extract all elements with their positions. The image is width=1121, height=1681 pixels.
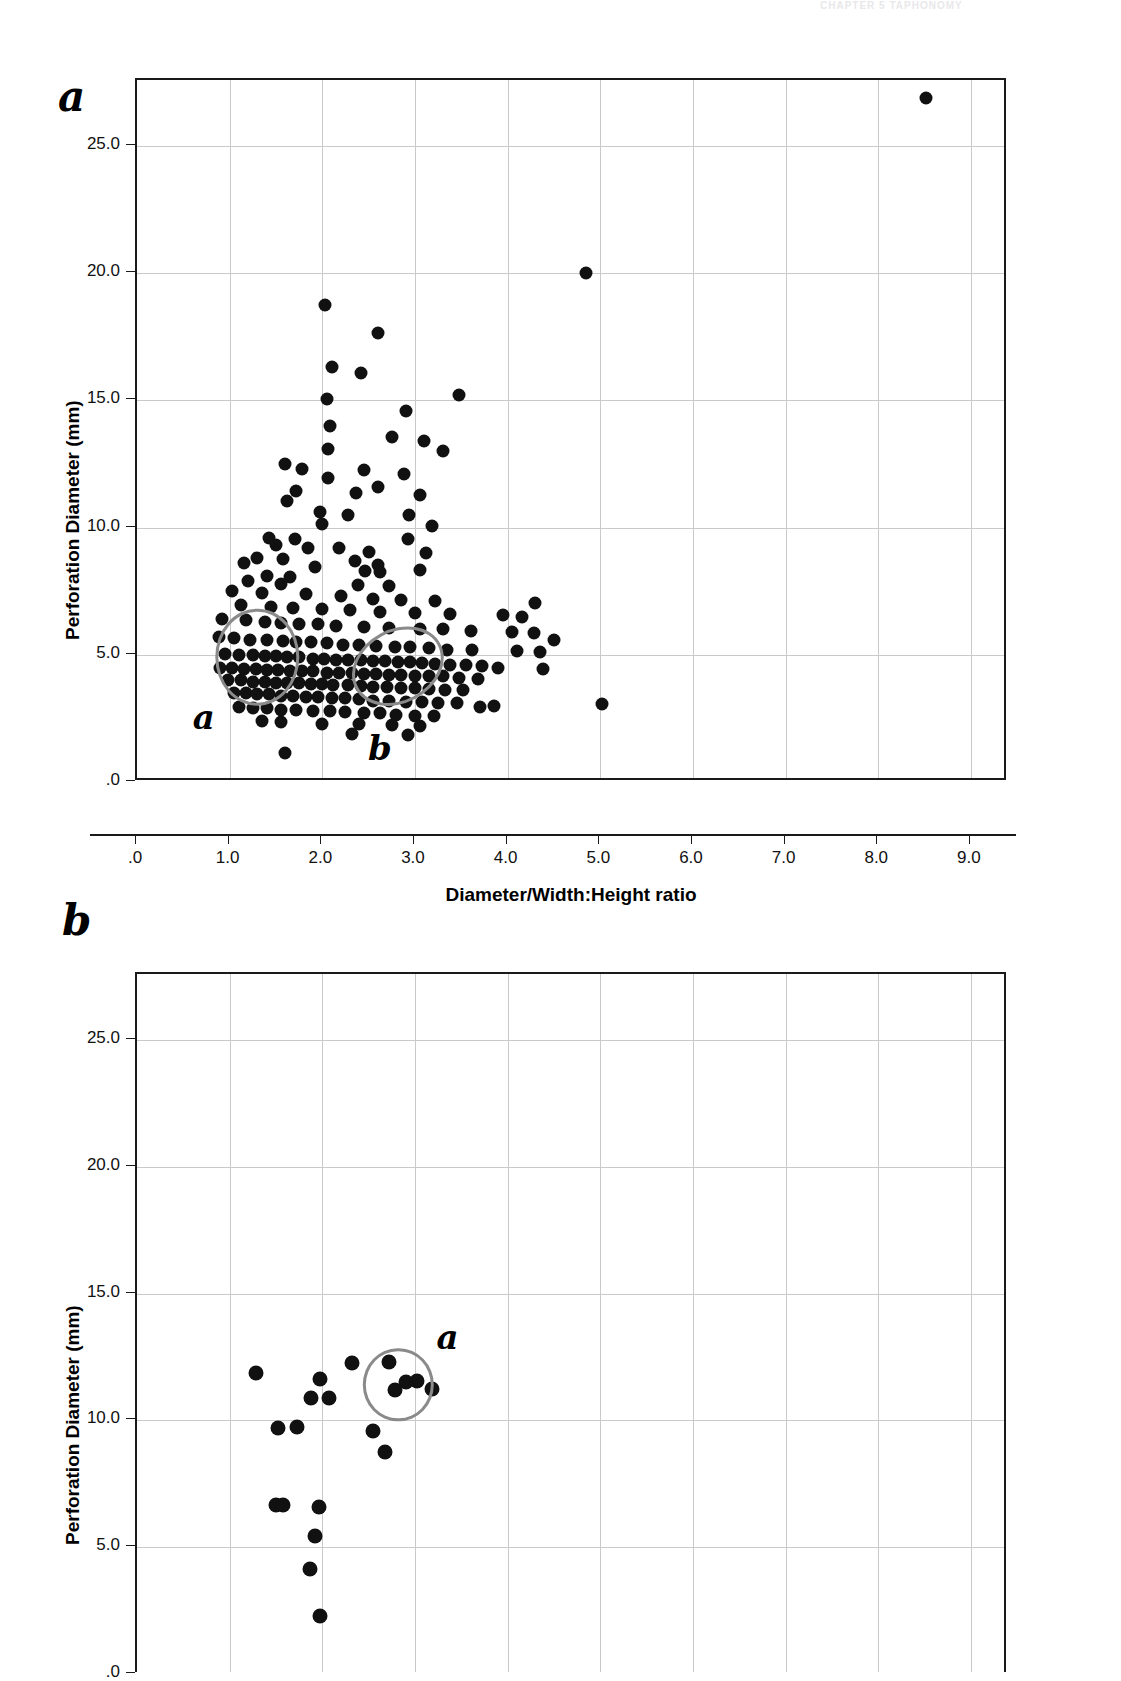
data-point — [436, 445, 449, 458]
y-axis-tick — [126, 526, 135, 527]
data-point — [274, 577, 287, 590]
gridline-vertical — [508, 974, 509, 1672]
y-axis-tick-label: 15.0 — [40, 1282, 120, 1302]
gridline-vertical — [322, 974, 323, 1672]
x-axis-tick-label: 1.0 — [216, 848, 240, 868]
x-axis-tick-label: 5.0 — [586, 848, 610, 868]
data-point — [457, 684, 470, 697]
page-header-text: CHAPTER 5 TAPHONOMY — [820, 0, 1120, 12]
data-point — [444, 659, 457, 672]
data-point — [330, 653, 343, 666]
data-point — [270, 1420, 285, 1435]
data-point — [358, 564, 371, 577]
panel-a-x-axis-title: Diameter/Width:Height ratio — [445, 884, 696, 906]
data-point — [321, 472, 334, 485]
data-point — [497, 609, 510, 622]
data-point — [225, 585, 238, 598]
data-point — [425, 520, 438, 533]
data-point — [311, 1499, 326, 1514]
x-axis-tick-label: 6.0 — [679, 848, 703, 868]
x-axis-tick — [969, 836, 970, 844]
data-point — [344, 604, 357, 617]
y-axis-tick — [126, 1545, 135, 1546]
data-point — [464, 624, 477, 637]
gridline-horizontal — [137, 400, 1004, 401]
data-point — [358, 464, 371, 477]
data-point — [237, 557, 250, 570]
gridline-vertical — [415, 974, 416, 1672]
data-point — [344, 1356, 359, 1371]
gridline-horizontal — [137, 528, 1004, 529]
data-point — [303, 1561, 318, 1576]
y-axis-tick-label: 25.0 — [40, 1028, 120, 1048]
panel-b-letter: b — [62, 900, 91, 942]
data-point — [339, 692, 352, 705]
data-point — [358, 620, 371, 633]
y-axis-tick-label: 25.0 — [40, 134, 120, 154]
x-axis-tick — [135, 836, 136, 844]
data-point — [351, 578, 364, 591]
gridline-horizontal — [137, 1294, 1004, 1295]
data-point — [332, 666, 345, 679]
x-axis-tick — [876, 836, 877, 844]
data-point — [256, 586, 269, 599]
y-axis-tick — [126, 398, 135, 399]
data-point — [319, 299, 332, 312]
y-axis-tick — [126, 1038, 135, 1039]
panel-a-letter: a — [58, 76, 85, 118]
data-point — [367, 592, 380, 605]
data-point — [580, 267, 593, 280]
gridline-vertical — [600, 974, 601, 1672]
y-axis-tick — [126, 271, 135, 272]
y-axis-tick — [126, 144, 135, 145]
data-point — [547, 633, 560, 646]
data-point — [320, 393, 333, 406]
x-axis-tick-label: 2.0 — [308, 848, 332, 868]
data-point — [487, 699, 500, 712]
data-point — [320, 637, 333, 650]
data-point — [290, 703, 303, 716]
data-point — [529, 596, 542, 609]
data-point — [299, 690, 312, 703]
data-point — [290, 484, 303, 497]
gridline-vertical — [786, 80, 787, 778]
data-point — [304, 1390, 319, 1405]
data-point — [307, 1528, 322, 1543]
gridline-horizontal — [137, 1040, 1004, 1041]
data-point — [475, 660, 488, 673]
data-point — [276, 1498, 291, 1513]
cluster-annotation-ellipse — [363, 1348, 433, 1422]
y-axis-tick-label: .0 — [40, 770, 120, 790]
data-point — [401, 728, 414, 741]
data-point — [325, 692, 338, 705]
data-point — [281, 494, 294, 507]
x-axis-tick — [506, 836, 507, 844]
y-axis-tick-label: .0 — [40, 1662, 120, 1681]
data-point — [316, 603, 329, 616]
data-point — [348, 554, 361, 567]
data-point — [313, 1608, 328, 1623]
x-axis-tick — [784, 836, 785, 844]
x-axis-tick-label: 7.0 — [772, 848, 796, 868]
y-axis-tick — [126, 1418, 135, 1419]
data-point — [316, 517, 329, 530]
data-point — [492, 661, 505, 674]
x-axis-tick — [228, 836, 229, 844]
data-point — [429, 595, 442, 608]
data-point — [323, 704, 336, 717]
data-point — [330, 619, 343, 632]
data-point — [444, 608, 457, 621]
x-axis-tick-label: 9.0 — [957, 848, 981, 868]
data-point — [321, 442, 334, 455]
data-point — [453, 671, 466, 684]
data-point — [459, 659, 472, 672]
x-axis-tick-label: .0 — [128, 848, 142, 868]
data-point — [466, 643, 479, 656]
y-axis-tick — [126, 780, 135, 781]
data-point — [450, 697, 463, 710]
data-point — [279, 458, 292, 471]
panel-b-plot-area: a — [135, 972, 1006, 1672]
gridline-horizontal — [137, 1547, 1004, 1548]
data-point — [473, 700, 486, 713]
x-axis-tick — [320, 836, 321, 844]
